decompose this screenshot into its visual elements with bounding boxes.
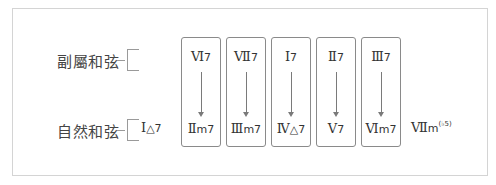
bracket-dash — [117, 60, 125, 61]
dominant-resolution-box: Ⅵ7 Ⅱm7 — [181, 37, 221, 147]
natural-chord: Ⅱm7 — [182, 121, 220, 136]
bracket-natural — [127, 119, 139, 141]
natural-chord: Ⅴ7 — [317, 121, 355, 136]
bracket-dash — [117, 130, 125, 131]
natural-chord: Ⅲm7 — [227, 121, 265, 136]
chord-natural-1: Ⅰ△7 — [141, 120, 162, 135]
arrow-down-icon — [336, 72, 337, 114]
secondary-chord: Ⅲ7 — [362, 49, 400, 64]
secondary-chord: Ⅵ7 — [182, 49, 220, 64]
secondary-chord: Ⅱ7 — [317, 49, 355, 64]
dominant-resolution-box: Ⅱ7 Ⅴ7 — [316, 37, 356, 147]
dominant-resolution-box: Ⅲ7 Ⅵm7 — [361, 37, 401, 147]
arrow-down-icon — [291, 72, 292, 114]
bracket-secondary — [127, 49, 139, 71]
arrow-down-icon — [381, 72, 382, 114]
dominant-resolution-box: Ⅶ7 Ⅲm7 — [226, 37, 266, 147]
natural-chord: Ⅵm7 — [362, 121, 400, 136]
arrow-down-icon — [201, 72, 202, 114]
arrow-down-icon — [246, 72, 247, 114]
natural-chord: Ⅳ△7 — [272, 121, 310, 136]
chord-natural-7: Ⅶm(♭5) — [411, 120, 452, 135]
natural-chords-label: 自然和弦 — [57, 120, 119, 141]
dominant-resolution-box: Ⅰ7 Ⅳ△7 — [271, 37, 311, 147]
secondary-chord: Ⅰ7 — [272, 49, 310, 64]
secondary-chords-label: 副屬和弦 — [57, 50, 119, 71]
secondary-chord: Ⅶ7 — [227, 49, 265, 64]
